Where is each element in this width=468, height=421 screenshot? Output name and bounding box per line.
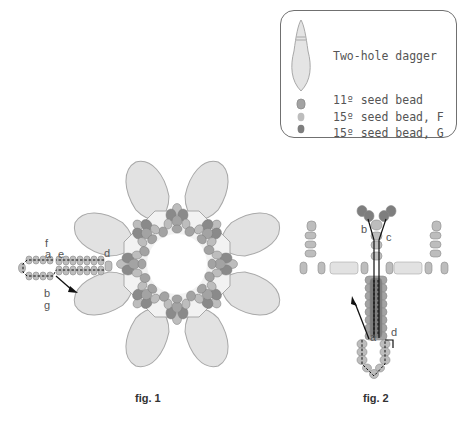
figure-2-caption: fig. 2	[363, 392, 389, 404]
figure-1-diagram: f a e d b g	[0, 0, 300, 421]
svg-text:a: a	[45, 248, 52, 260]
svg-text:g: g	[44, 299, 50, 311]
svg-text:c: c	[386, 231, 392, 243]
figure-1-caption: fig. 1	[135, 392, 161, 404]
svg-text:d: d	[391, 326, 397, 338]
svg-text:e: e	[58, 248, 64, 260]
svg-text:b: b	[44, 287, 50, 299]
svg-text:a: a	[370, 331, 377, 343]
svg-text:b: b	[361, 223, 367, 235]
svg-text:d: d	[104, 247, 110, 259]
beading-diagram: Two-hole dagger 11º seed bead 15º seed b…	[0, 0, 468, 421]
figure-2-diagram: b c a d	[290, 0, 468, 421]
